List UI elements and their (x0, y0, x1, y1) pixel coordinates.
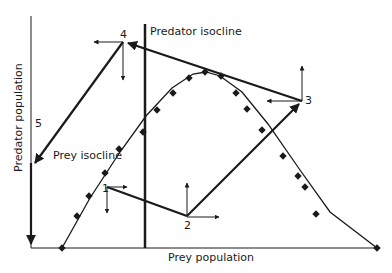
trajectory-2-to-3 (187, 104, 299, 216)
point-label-2: 2 (184, 220, 191, 231)
trajectory-1-to-2 (107, 187, 187, 216)
point-label-1: 1 (102, 183, 109, 194)
vector-arrows (94, 42, 302, 217)
x-axis-label: Prey population (168, 252, 254, 263)
trajectory-3-to-4 (128, 43, 302, 101)
y-axis-label: Predator population (13, 63, 24, 172)
axes (31, 16, 378, 248)
predator-prey-phase-diagram (0, 0, 392, 273)
trajectory-4-to-5 (35, 42, 123, 163)
population-trajectory (31, 42, 302, 244)
predator-isocline-label: Predator isocline (150, 26, 242, 37)
point-label-5: 5 (35, 118, 42, 129)
prey-isocline-label: Prey isocline (53, 150, 122, 161)
point-label-4: 4 (120, 29, 127, 40)
point-label-3: 3 (305, 95, 312, 106)
